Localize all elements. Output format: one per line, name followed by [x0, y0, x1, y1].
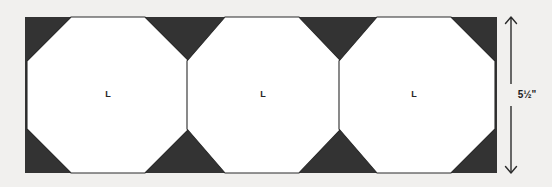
octagon-layout-figure: L L L 5½" [0, 0, 552, 187]
octagon-3: L [339, 17, 495, 173]
octagon-1: L [27, 17, 189, 173]
octagon-3-shape [339, 17, 495, 173]
octagon-1-label: L [105, 89, 111, 99]
dimension-label: 5½" [518, 89, 537, 100]
figure-canvas: L L L 5½" [0, 0, 552, 187]
height-dimension: 5½" [506, 17, 537, 173]
octagon-2: L [187, 17, 341, 173]
octagon-3-label: L [411, 89, 417, 99]
octagon-2-label: L [260, 89, 266, 99]
